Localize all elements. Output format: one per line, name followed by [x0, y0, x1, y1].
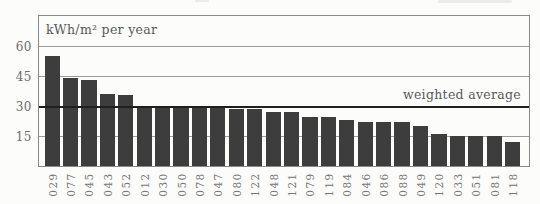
bar-078 [192, 106, 207, 166]
bar-049 [413, 126, 428, 166]
xtick-label-029: 029 [46, 169, 59, 201]
xtick-label-122: 122 [249, 169, 262, 201]
bar-086 [376, 122, 391, 166]
ytick-label-15: 15 [0, 129, 32, 145]
xtick-label-077: 077 [65, 169, 78, 201]
weighted-average-line [39, 106, 529, 108]
bar-077 [63, 78, 78, 166]
crop-artifact-right [438, 0, 512, 3]
xtick-label-046: 046 [359, 169, 372, 201]
xtick-label-084: 084 [341, 169, 354, 201]
ytick-label-45: 45 [0, 69, 32, 85]
xtick-label-048: 048 [267, 169, 280, 201]
bar-120 [431, 134, 446, 166]
bar-080 [229, 109, 244, 166]
y-axis-unit-label: kWh/m² per year [46, 22, 157, 37]
xtick-label-086: 086 [378, 169, 391, 201]
crop-artifact-left [195, 0, 209, 2]
bar-122 [247, 109, 262, 166]
xtick-label-079: 079 [304, 169, 317, 201]
bar-030 [155, 106, 170, 166]
xtick-label-030: 030 [157, 169, 170, 201]
bar-051 [468, 136, 483, 166]
bar-045 [81, 80, 96, 166]
xtick-label-012: 012 [138, 169, 151, 201]
weighted-average-label: weighted average [403, 87, 521, 102]
xtick-label-120: 120 [433, 169, 446, 201]
xtick-label-051: 051 [470, 169, 483, 201]
bar-029 [45, 56, 60, 166]
bar-118 [505, 142, 520, 166]
xtick-label-081: 081 [488, 169, 501, 201]
xtick-label-050: 050 [175, 169, 188, 201]
xtick-label-119: 119 [322, 169, 335, 201]
xtick-label-049: 049 [415, 169, 428, 201]
bar-048 [266, 112, 281, 166]
xtick-label-045: 045 [83, 169, 96, 201]
ytick-label-60: 60 [0, 39, 32, 55]
bar-121 [284, 112, 299, 166]
xtick-label-047: 047 [212, 169, 225, 201]
plot-area: kWh/m² per year weighted average [38, 15, 530, 167]
bar-088 [394, 122, 409, 166]
xtick-label-080: 080 [230, 169, 243, 201]
bar-081 [487, 136, 502, 166]
xtick-label-043: 043 [101, 169, 114, 201]
bar-chart-figure: kWh/m² per year weighted average 1530456… [0, 0, 540, 204]
gridline-60 [39, 46, 529, 47]
xtick-label-033: 033 [451, 169, 464, 201]
xtick-label-088: 088 [396, 169, 409, 201]
bar-033 [450, 136, 465, 166]
xtick-label-052: 052 [120, 169, 133, 201]
bar-084 [339, 120, 354, 166]
bar-043 [100, 94, 115, 166]
bar-046 [358, 122, 373, 166]
xtick-label-118: 118 [507, 169, 520, 201]
ytick-label-30: 30 [0, 99, 32, 115]
xtick-label-078: 078 [193, 169, 206, 201]
gridline-45 [39, 76, 529, 77]
bar-012 [137, 106, 152, 166]
bar-047 [210, 106, 225, 166]
bar-050 [173, 106, 188, 166]
bar-079 [302, 117, 317, 166]
bar-119 [321, 117, 336, 166]
xtick-label-121: 121 [286, 169, 299, 201]
